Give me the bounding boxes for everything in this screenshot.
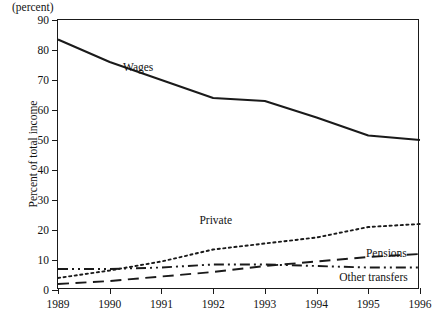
series-label-other-transfers: Other transfers [339,271,408,283]
x-axis-tick-label: 1991 [150,298,173,310]
series-label-pensions: Pensions [366,247,407,259]
x-axis-tick-label: 1996 [409,298,432,310]
x-axis-tick [420,288,421,294]
x-axis-tick-label: 1995 [357,298,380,310]
x-axis-tick-label: 1993 [253,298,276,310]
x-axis-tick-label: 1990 [98,298,121,310]
y-axis-title: Percent of total income [27,59,39,249]
unit-note: (percent) [12,1,54,13]
x-axis-tick-label: 1989 [47,298,70,310]
x-axis-tick-label: 1992 [202,298,225,310]
chart-figure: (percent) Percent of total income 010203… [0,0,436,318]
x-axis-tick-label: 1994 [305,298,328,310]
series-label-wages: Wages [123,61,153,73]
series-label-private: Private [199,214,232,226]
series-line-wages [58,40,420,141]
plot-area: 0102030405060708090 19891990199119921993… [57,19,419,289]
